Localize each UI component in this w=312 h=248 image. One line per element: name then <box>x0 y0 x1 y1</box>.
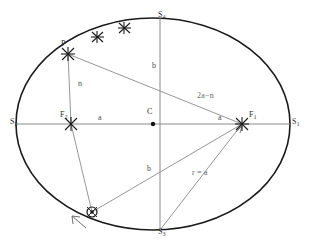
radius-vector-lower-body <box>92 124 242 212</box>
label-semi-major-right: a <box>218 114 222 122</box>
center-dot <box>151 122 155 126</box>
circled-body-marker <box>87 207 97 217</box>
motion-direction-arrow <box>72 216 86 228</box>
label-point-p: P <box>61 40 66 48</box>
point-p-marker <box>61 47 75 61</box>
label-radius-r-equals-a: r = a <box>192 169 208 177</box>
label-focus-left: F2 <box>60 111 68 119</box>
ellipse-diagram <box>0 0 312 248</box>
star-cross-marker <box>118 22 131 34</box>
label-center: C <box>147 108 153 116</box>
label-vertex-right: S1 <box>292 118 300 126</box>
label-vertex-bottom: S3 <box>158 228 166 236</box>
label-vertex-top: S4 <box>158 11 166 19</box>
label-semi-minor-bottom: b <box>147 165 151 173</box>
radius-vector-r-equals-a <box>160 124 242 230</box>
label-semi-major-left: a <box>98 114 102 122</box>
star-cross-marker <box>91 31 104 43</box>
label-semi-minor-top: b <box>152 62 156 70</box>
label-radius-n: n <box>78 80 82 88</box>
focal-chord-lower-left <box>71 124 92 212</box>
label-radius-2a-minus-n: 2a−n <box>197 92 214 100</box>
radius-vector-n <box>68 54 71 124</box>
label-vertex-left: S2 <box>10 118 18 126</box>
figure-canvas: S2 S1 S4 S3 P F2 F1 C a a b b n 2a−n r =… <box>0 0 312 248</box>
focus-right-marker <box>235 117 249 131</box>
label-focus-right: F1 <box>249 111 257 119</box>
